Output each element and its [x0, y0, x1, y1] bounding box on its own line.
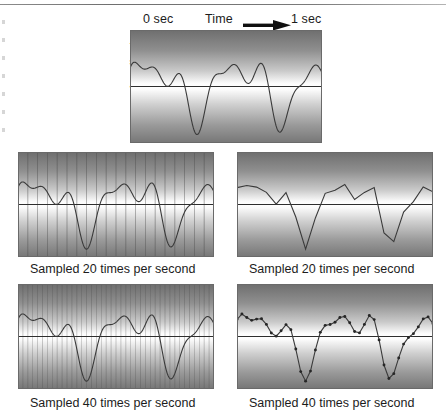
scan-edge-artifacts [0, 14, 10, 139]
waveform-curve [130, 62, 322, 134]
caption-sampled-20-right: Sampled 20 times per second [249, 262, 414, 276]
panel-reconstruction-20 [237, 152, 433, 257]
waveform-plot-grid-40 [18, 284, 214, 389]
panel-original-waveform [130, 30, 322, 143]
waveform-plot-grid-20 [18, 152, 214, 257]
sampling-rate-figure: 0 sec Time 1 sec Amplitude Sampled 20 ti… [0, 0, 446, 420]
page-top-rule [0, 4, 446, 5]
caption-sampled-40-right: Sampled 40 times per second [249, 396, 414, 410]
waveform-plot-original [130, 30, 322, 143]
time-axis-label: Time [205, 12, 233, 26]
waveform-plot-recon-20 [237, 152, 433, 257]
waveform-plot-recon-40 [237, 284, 433, 389]
panel-sampled-40-gridlines [18, 284, 214, 389]
caption-sampled-20-left: Sampled 20 times per second [30, 262, 195, 276]
start-time-label: 0 sec [143, 12, 173, 26]
caption-sampled-40-left: Sampled 40 times per second [30, 396, 195, 410]
panel-sampled-20-gridlines [18, 152, 214, 257]
sample-markers [237, 313, 433, 383]
waveform-curve [237, 184, 433, 249]
panel-reconstruction-40 [237, 284, 433, 389]
end-time-label: 1 sec [291, 12, 321, 26]
